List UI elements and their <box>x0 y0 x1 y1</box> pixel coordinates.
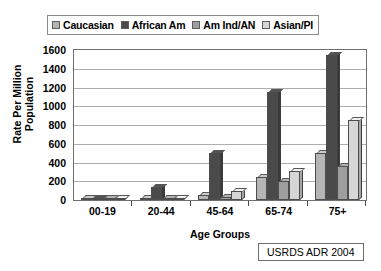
bar-am-ind-an-45-64 <box>220 50 231 200</box>
legend-item-asian-pi: Asian/PI <box>262 20 313 30</box>
bar-am-ind-an-75plus <box>337 50 348 200</box>
legend-swatch-caucasian <box>52 21 60 29</box>
x-axis-labels: 00-1920-4445-6465-7475+ <box>73 205 367 219</box>
bar-face <box>162 198 173 200</box>
bar-face <box>209 153 220 200</box>
bar-face <box>114 198 125 200</box>
x-tick-label-65-74: 65-74 <box>249 205 308 219</box>
legend-item-am-ind-an: Am Ind/AN <box>192 20 255 30</box>
bar-face <box>220 197 231 200</box>
bar-face <box>198 195 209 200</box>
chart-legend: Caucasian African Am Am Ind/AN Asian/PI <box>47 15 319 35</box>
bar-group-00-19 <box>74 50 132 200</box>
legend-swatch-asian-pi <box>262 21 270 29</box>
bar-face <box>103 198 114 200</box>
y-tick-label-1600: 1600 <box>43 45 66 55</box>
x-tick-label-45-64: 45-64 <box>191 205 250 219</box>
legend-item-african-am: African Am <box>121 20 186 30</box>
bar-african-am-45-64 <box>209 50 220 200</box>
x-tick-label-75plus: 75+ <box>308 205 367 219</box>
bar-top-face <box>291 168 305 171</box>
bar-group-20-44 <box>132 50 190 200</box>
x-tick-label-20-44: 20-44 <box>132 205 191 219</box>
bar-asian-pi-00-19 <box>114 50 125 200</box>
legend-item-caucasian: Caucasian <box>52 20 114 30</box>
bar-asian-pi-65-74 <box>289 50 300 200</box>
bar-african-am-65-74 <box>267 50 278 200</box>
bar-african-am-75plus <box>326 50 337 200</box>
bar-face <box>289 171 300 200</box>
bar-caucasian-00-19 <box>81 50 92 200</box>
y-tick-label-0: 0 <box>60 195 66 205</box>
bar-african-am-00-19 <box>92 50 103 200</box>
bar-asian-pi-75plus <box>348 50 359 200</box>
y-tick-label-800: 800 <box>48 120 66 130</box>
chart-figure: Caucasian African Am Am Ind/AN Asian/PI … <box>0 0 381 271</box>
x-tick-label-00-19: 00-19 <box>73 205 132 219</box>
bar-am-ind-an-65-74 <box>278 50 289 200</box>
legend-label-asian-pi: Asian/PI <box>273 20 313 30</box>
bar-am-ind-an-00-19 <box>103 50 114 200</box>
x-axis-title: Age Groups <box>73 228 367 240</box>
bar-face <box>337 166 348 200</box>
source-caption: USRDS ADR 2004 <box>258 243 364 261</box>
bar-face <box>348 120 359 200</box>
bar-face <box>278 181 289 200</box>
bar-face <box>140 198 151 200</box>
bar-african-am-20-44 <box>151 50 162 200</box>
bar-face <box>151 187 162 200</box>
bar-caucasian-20-44 <box>140 50 151 200</box>
bar-face <box>326 55 337 200</box>
legend-swatch-african-am <box>121 21 129 29</box>
y-tick-label-400: 400 <box>48 158 66 168</box>
bar-face <box>92 198 103 200</box>
bar-side-face <box>300 168 303 200</box>
bar-asian-pi-45-64 <box>231 50 242 200</box>
y-tick-label-600: 600 <box>48 139 66 149</box>
bars-layer <box>74 50 366 200</box>
legend-label-am-ind-an: Am Ind/AN <box>203 20 255 30</box>
bar-face <box>231 191 242 200</box>
y-tick-label-1000: 1000 <box>43 101 66 111</box>
bar-am-ind-an-20-44 <box>162 50 173 200</box>
bar-face <box>267 92 278 200</box>
bar-asian-pi-20-44 <box>173 50 184 200</box>
bar-caucasian-75plus <box>315 50 326 200</box>
y-axis-title-line-1: Rate Per Million <box>11 29 23 179</box>
bar-top-face <box>116 195 130 198</box>
y-tick-label-1400: 1400 <box>43 64 66 74</box>
bar-top-face <box>175 195 189 198</box>
bar-group-45-64 <box>191 50 249 200</box>
bar-face <box>256 177 267 200</box>
bar-face <box>173 198 184 200</box>
bar-face <box>81 198 92 200</box>
y-axis-ticks: 02004006008001000120014001600 <box>32 42 70 208</box>
legend-label-caucasian: Caucasian <box>63 20 114 30</box>
legend-label-african-am: African Am <box>132 20 186 30</box>
bar-group-75plus <box>308 50 366 200</box>
bar-caucasian-45-64 <box>198 50 209 200</box>
y-tick-label-200: 200 <box>48 176 66 186</box>
bar-group-65-74 <box>249 50 307 200</box>
bar-face <box>315 153 326 200</box>
bar-caucasian-65-74 <box>256 50 267 200</box>
y-tick-label-1200: 1200 <box>43 83 66 93</box>
bar-side-face <box>359 117 362 200</box>
legend-swatch-am-ind-an <box>192 21 200 29</box>
